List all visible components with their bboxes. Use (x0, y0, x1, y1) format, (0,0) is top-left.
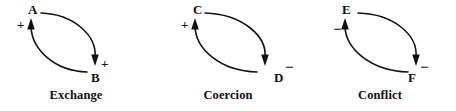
sign-bottom: + (101, 57, 108, 70)
node-label-top: A (28, 3, 38, 16)
node-label-bottom: B (91, 71, 100, 84)
sign-bottom: − (285, 61, 294, 74)
panel-caption: Coercion (152, 88, 304, 103)
edge-f-to-e (345, 27, 408, 72)
arrowhead-into-e (341, 18, 349, 30)
edge-a-to-b (41, 13, 95, 57)
node-label-top: C (193, 3, 203, 16)
node-label-bottom: D (274, 71, 284, 84)
arrowhead-into-d (261, 55, 269, 67)
arrowhead-into-b (91, 55, 99, 67)
panel-caption: Conflict (304, 88, 456, 103)
figure-canvas: A + B + Exchange C + D − Coercion (0, 0, 456, 111)
edge-e-to-f (358, 13, 416, 57)
edge-c-to-d (205, 13, 265, 57)
sign-top: + (17, 18, 24, 31)
edge-b-to-a (31, 27, 87, 72)
arrowhead-into-f (412, 55, 420, 67)
arrowhead-into-c (191, 18, 199, 30)
edge-d-to-c (195, 27, 257, 72)
sign-bottom: − (420, 61, 429, 74)
diagram-panel-coercion: C + D − Coercion (152, 0, 304, 111)
panel-caption: Exchange (0, 88, 152, 103)
node-label-bottom: F (408, 71, 416, 84)
node-label-top: E (342, 3, 351, 16)
diagram-panel-conflict: E − F − Conflict (304, 0, 456, 111)
sign-top: + (181, 18, 188, 31)
sign-top: − (333, 23, 342, 36)
arrowhead-into-a (27, 18, 35, 30)
diagram-panel-exchange: A + B + Exchange (0, 0, 152, 111)
